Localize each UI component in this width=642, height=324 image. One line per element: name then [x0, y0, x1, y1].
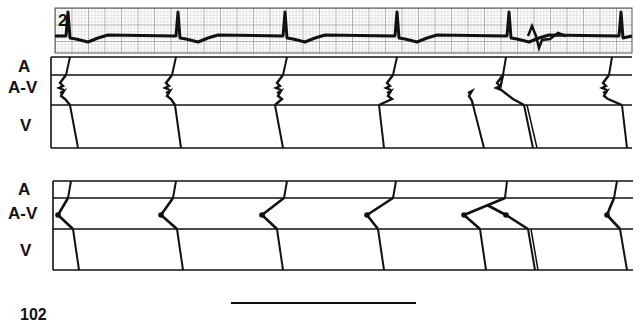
ladder-top: [51, 57, 632, 148]
ventricular-activation-line: [480, 229, 486, 270]
ventricular-activation-line: [70, 105, 78, 148]
av-zigzag-lower: [468, 91, 473, 105]
av-pivot-dot: [604, 212, 610, 218]
av-zigzag-lower: [275, 91, 282, 105]
ecg-grid: [55, 8, 632, 53]
av-pivot-dot: [158, 212, 164, 218]
av-zigzag-lower: [166, 91, 175, 105]
ecg-strip: 2: [55, 8, 632, 53]
av-zigzag-upper: [276, 75, 283, 90]
av-conduction-path: [161, 198, 177, 229]
atrial-activation-line: [393, 181, 396, 198]
av-zigzag-lower: [603, 91, 622, 105]
ventricular-activation-line: [275, 105, 283, 148]
av-pivot-dot: [364, 212, 370, 218]
atrial-activation-line: [68, 181, 71, 198]
av-pivot-dot: [461, 212, 467, 218]
ventricular-activation-line: [473, 105, 484, 148]
av-conduction-path: [464, 198, 505, 229]
av-pivot-dot: [55, 212, 61, 218]
atrial-activation-line: [503, 57, 506, 75]
av-pivot-dot: [259, 212, 265, 218]
av-zigzag-upper: [602, 75, 609, 90]
atrial-activation-line: [283, 57, 287, 75]
atrial-activation-line: [505, 181, 507, 198]
ladder-bottom: [53, 181, 633, 270]
av-delayed-conduction: [500, 75, 524, 105]
av-zigzag-upper: [59, 75, 66, 90]
ventricular-activation-line: [379, 105, 384, 148]
ventricular-activation-line: [620, 229, 627, 270]
ventricular-activation-line: [177, 229, 183, 270]
av-zigzag-upper: [386, 75, 393, 90]
ecg-lead-label: 2: [58, 11, 67, 30]
atrial-activation-line: [173, 181, 176, 198]
atrial-activation-line: [172, 57, 176, 75]
atrial-activation-line: [284, 181, 287, 198]
ventricular-activation-line: [378, 229, 384, 270]
av-conduction-path: [367, 198, 393, 229]
av-zigzag-lower: [60, 91, 70, 105]
ventricular-activation-line: [622, 105, 627, 148]
ventricular-activation-line: [73, 229, 79, 270]
atrial-activation-line: [393, 57, 397, 75]
av-zigzag-lower: [379, 91, 392, 105]
av-pivot-dot: [503, 212, 509, 218]
ventricular-activation-line: [277, 229, 283, 270]
atrial-activation-line: [66, 57, 70, 75]
av-zigzag-upper: [165, 75, 172, 90]
atrial-activation-line: [614, 181, 617, 198]
av-conduction-path: [262, 198, 284, 229]
atrial-activation-line: [609, 57, 612, 75]
ventricular-activation-line: [175, 105, 181, 148]
